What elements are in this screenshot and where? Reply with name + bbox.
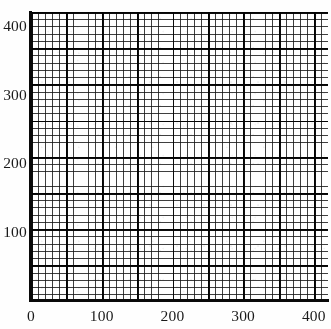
x-tick-label-400: 400: [302, 308, 326, 324]
graph-paper-figure: 100200300400 0100200300400: [0, 0, 331, 329]
x-tick-label-300: 300: [231, 308, 255, 324]
x-tick-label-200: 200: [160, 308, 184, 324]
x-tick-label-100: 100: [90, 308, 114, 324]
x-tick-label-0: 0: [27, 308, 35, 324]
x-axis-tick-labels: 0100200300400: [0, 0, 331, 329]
